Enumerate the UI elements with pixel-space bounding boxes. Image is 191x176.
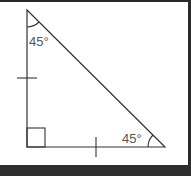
bottom-frame-band (0, 165, 191, 176)
triangle (27, 10, 165, 147)
right-angle-mark (27, 128, 45, 147)
top-angle-label: 45° (29, 34, 49, 49)
bottom-right-angle-arc (148, 135, 153, 147)
bottom-right-angle-label: 45° (122, 131, 142, 146)
top-angle-arc (27, 22, 39, 27)
triangle-diagram: 45° 45° (0, 0, 191, 176)
